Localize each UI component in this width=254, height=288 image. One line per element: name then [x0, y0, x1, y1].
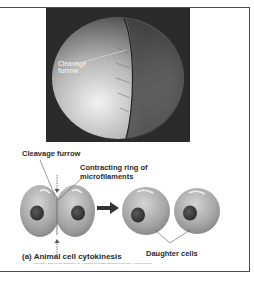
copyright-notice: Copyright © 2005 Pearson Education, Inc.…: [34, 262, 194, 265]
nucleus-left: [30, 206, 44, 221]
contracting-ring-label: Contracting ring of microfilaments: [80, 164, 148, 181]
cleavage-furrow-label: Cleavage furrow: [22, 150, 80, 159]
daughter-cell-2: [174, 188, 220, 234]
cytokinesis-diagram: [0, 0, 254, 288]
right-arrow-icon: [97, 202, 119, 214]
daughter-cells-label: Daughter cells: [146, 250, 198, 259]
daughter-cells-leader: [155, 230, 190, 243]
figure-caption: (a) Animal cell cytokinesis: [22, 253, 122, 262]
nucleus-right: [71, 206, 85, 221]
daughter-cell-1: [122, 187, 170, 235]
